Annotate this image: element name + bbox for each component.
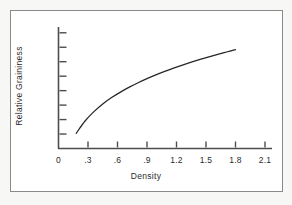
x-axis-tick-label: .9 bbox=[132, 155, 162, 165]
x-axis-tick-label: 1.2 bbox=[162, 155, 192, 165]
x-axis-title: Density bbox=[0, 171, 292, 181]
axes-group bbox=[58, 27, 272, 149]
x-axis-tick-label: .6 bbox=[103, 155, 133, 165]
y-axis-ticks bbox=[60, 33, 67, 134]
x-axis-tick-label: 0 bbox=[44, 155, 74, 165]
x-axis-tick-label: 1.5 bbox=[191, 155, 221, 165]
y-axis-title: Relative Graininess bbox=[14, 36, 24, 136]
x-axis-tick-label: 2.1 bbox=[250, 155, 280, 165]
figure-container: 0.3.6.91.21.51.82.1 Density Relative Gra… bbox=[0, 0, 292, 205]
x-axis-tick-label: 1.8 bbox=[221, 155, 251, 165]
x-axis-ticks bbox=[88, 142, 265, 148]
x-axis-tick-label: .3 bbox=[73, 155, 103, 165]
data-series-line bbox=[76, 50, 235, 134]
